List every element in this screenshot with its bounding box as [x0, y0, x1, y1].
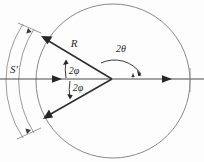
label-angle-two-phi-upper: 2φ [69, 65, 80, 76]
geometry-figure: R S′ 2θ 2φ 2φ [0, 0, 204, 162]
axis-arrowhead-right [162, 75, 172, 83]
main-circle [36, 4, 190, 158]
label-angle-two-theta: 2θ [116, 43, 126, 54]
angle-arc-two-phi-lower-arrowhead [67, 94, 73, 100]
inner-reference-arc [19, 29, 34, 133]
axis-tick-arrowhead [131, 74, 134, 78]
outer-reference-arc [6, 24, 23, 138]
diagram-canvas: R S′ 2θ 2φ 2φ [0, 0, 204, 162]
upper-ray [47, 40, 112, 79]
label-angle-two-phi-lower: 2φ [73, 82, 84, 93]
label-radius: R [70, 37, 78, 49]
angle-arc-two-theta [101, 60, 141, 74]
axis-arrowhead-left [52, 75, 62, 83]
label-arc-length: S′ [10, 63, 19, 75]
